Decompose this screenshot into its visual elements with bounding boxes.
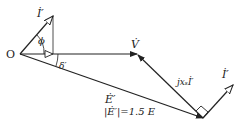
jx-label: jxₛİ′ (175, 76, 194, 87)
diagram-canvas: O ϕ δ′ İ′ V̇ Ė′ |Ė′|=1.5 E jxₛİ′ İ′ (0, 0, 241, 126)
I-prime-bottom-label: İ′ (221, 67, 229, 81)
phi-label: ϕ (38, 35, 45, 46)
E-prime-label: Ė′ (104, 92, 116, 106)
delta-label: δ′ (59, 61, 66, 71)
E-magnitude-label: |Ė′|=1.5 E (104, 106, 156, 118)
I-prime-top-label: İ′ (36, 6, 44, 20)
origin-label: O (6, 48, 15, 61)
V-label: V̇ (131, 38, 140, 51)
i-projection-arrow-icon (45, 51, 53, 58)
delta-arc (56, 54, 58, 66)
phasor-diagram: O ϕ δ′ İ′ V̇ Ė′ |Ė′|=1.5 E jxₛİ′ İ′ (0, 0, 241, 126)
vector-I-prime-top (20, 16, 53, 54)
